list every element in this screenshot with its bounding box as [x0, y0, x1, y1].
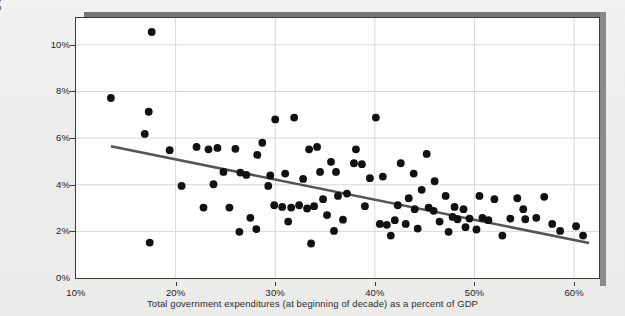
x-tick-label: 10% — [54, 287, 98, 298]
data-point — [284, 218, 292, 226]
data-point — [307, 240, 315, 248]
data-point — [166, 146, 174, 154]
data-point — [425, 204, 433, 212]
data-point — [220, 168, 228, 176]
data-point — [327, 158, 335, 166]
data-point — [200, 204, 208, 212]
data-point — [303, 205, 311, 213]
y-tick-label: 8% — [36, 85, 70, 96]
y-tick-label: 10% — [36, 39, 70, 50]
x-tick-label: 30% — [253, 287, 297, 298]
data-point — [332, 168, 340, 176]
data-point — [498, 232, 506, 240]
data-point — [476, 192, 484, 200]
data-point — [310, 202, 318, 210]
data-point — [485, 216, 493, 224]
x-tick-label: 20% — [154, 287, 198, 298]
data-point — [460, 205, 468, 213]
data-point — [431, 177, 439, 185]
data-point — [473, 226, 481, 234]
y-axis-label-wrapper: Decade-long growth rate — [0, 0, 4, 60]
x-axis-ticks: 10%20%30%40%50%60% — [0, 282, 625, 298]
data-point — [379, 173, 387, 181]
data-point — [270, 201, 278, 209]
data-point — [287, 204, 295, 212]
frame-shadow-right — [600, 12, 606, 286]
data-point — [540, 193, 548, 201]
figure-container: Decade-long growth rate 0%2%4%6%8%10% 10… — [0, 0, 625, 316]
data-point — [423, 150, 431, 158]
data-point — [316, 168, 324, 176]
data-point — [214, 144, 222, 152]
data-point — [506, 215, 514, 223]
data-point — [454, 215, 462, 223]
data-point — [387, 232, 395, 240]
data-point — [414, 225, 422, 233]
data-point — [278, 203, 286, 211]
data-point — [205, 145, 213, 153]
data-point — [252, 225, 260, 233]
data-point — [397, 159, 405, 167]
data-point — [146, 239, 154, 247]
data-point — [442, 192, 450, 200]
data-point — [299, 175, 307, 183]
data-point — [548, 220, 556, 228]
data-point — [148, 28, 156, 36]
data-point — [352, 145, 360, 153]
data-point — [519, 205, 527, 213]
data-point — [339, 216, 347, 224]
data-point — [358, 160, 366, 168]
data-point — [313, 143, 321, 151]
y-tick-mark — [70, 45, 75, 46]
data-point — [334, 192, 342, 200]
data-point — [305, 145, 313, 153]
data-point — [141, 130, 149, 138]
data-point — [295, 201, 303, 209]
data-point — [361, 202, 369, 210]
data-point — [521, 215, 529, 223]
data-point — [556, 227, 564, 235]
data-point — [410, 170, 418, 178]
plot-area — [75, 17, 600, 279]
x-tick-mark — [474, 282, 475, 286]
x-tick-label: 50% — [452, 287, 496, 298]
data-point — [281, 170, 289, 178]
data-point — [572, 222, 580, 230]
data-point — [271, 116, 279, 124]
y-axis-ticks: 0%2%4%6%8%10% — [30, 0, 70, 316]
data-point — [290, 114, 298, 122]
data-point — [330, 227, 338, 235]
data-point — [350, 159, 358, 167]
data-point — [258, 139, 266, 147]
data-point — [462, 223, 470, 231]
data-point — [372, 114, 380, 122]
y-tick-mark — [70, 231, 75, 232]
data-point — [242, 171, 250, 179]
data-point — [394, 201, 402, 209]
data-point — [451, 203, 459, 211]
data-point — [383, 221, 391, 229]
data-point — [264, 182, 272, 190]
data-point — [193, 143, 201, 151]
x-tick-mark — [375, 282, 376, 286]
x-tick-label: 60% — [552, 287, 596, 298]
data-point — [178, 182, 186, 190]
data-point — [253, 151, 261, 159]
data-point — [366, 174, 374, 182]
data-point — [532, 214, 540, 222]
data-point — [226, 204, 234, 212]
y-tick-mark — [70, 138, 75, 139]
y-axis-label: Decade-long growth rate — [0, 0, 1, 60]
scatter-plot-canvas — [76, 18, 599, 278]
data-point — [376, 220, 384, 228]
data-point — [145, 108, 153, 116]
data-point — [405, 194, 413, 202]
data-point — [402, 220, 410, 228]
data-point — [445, 228, 453, 236]
x-tick-mark — [176, 282, 177, 286]
data-point — [466, 215, 474, 223]
data-point — [319, 195, 327, 203]
data-point — [210, 180, 218, 188]
x-axis-label: Total government expenditures (at beginn… — [0, 298, 625, 309]
y-tick-label: 2% — [36, 225, 70, 236]
